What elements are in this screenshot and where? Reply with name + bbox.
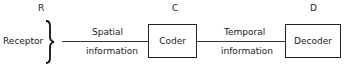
- coder-label: Coder: [159, 36, 186, 46]
- decoder-letter: D: [310, 3, 317, 13]
- receptor-brace-icon: [44, 20, 56, 64]
- temporal-connector-line: [197, 41, 285, 42]
- spatial-connector-line: [62, 41, 148, 42]
- decoder-label: Decoder: [294, 36, 332, 46]
- coder-box: Coder: [148, 24, 197, 58]
- coder-letter: C: [172, 3, 178, 13]
- temporal-information-label: information: [221, 46, 273, 56]
- temporal-label: Temporal: [224, 27, 265, 37]
- decoder-box: Decoder: [285, 24, 341, 58]
- spatial-information-label: information: [86, 46, 138, 56]
- receptor-label: Receptor: [3, 36, 43, 46]
- spatial-label: Spatial: [92, 27, 123, 37]
- receptor-letter: R: [38, 3, 44, 13]
